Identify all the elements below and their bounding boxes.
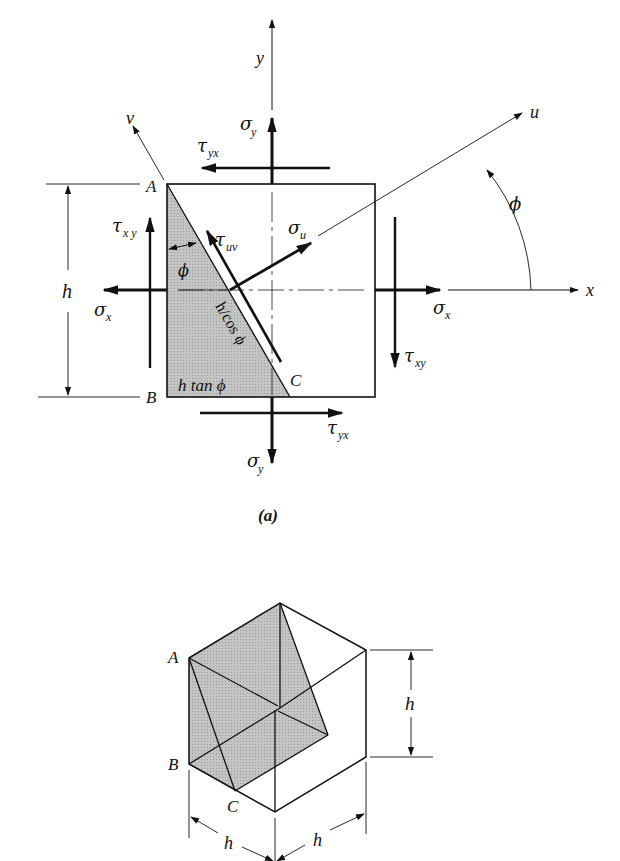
svg-text:xy: xy	[414, 356, 426, 370]
svg-text:τ: τ	[197, 135, 208, 156]
depth-left-dim-a	[191, 817, 218, 833]
depth-left-dim-b	[242, 847, 273, 861]
figure-a: y x u v ϕ A B C h ϕ h tan ϕ h/cos ϕ σ y …	[38, 20, 594, 525]
svg-text:x y: x y	[122, 226, 137, 240]
u-axis-label: u	[530, 102, 539, 122]
svg-text:τ: τ	[112, 215, 123, 236]
tau-xy-left-label: τ x y	[112, 215, 137, 240]
corner-c-label: C	[290, 371, 302, 390]
u-axis	[318, 113, 522, 236]
svg-text:τ: τ	[215, 229, 226, 250]
v-axis	[133, 126, 164, 180]
wedge-phi-label: ϕ	[178, 261, 189, 280]
phi-arc	[487, 170, 531, 290]
y-axis-label: y	[254, 48, 264, 68]
svg-text:u: u	[300, 228, 306, 242]
corner-a-label: A	[145, 177, 157, 196]
sigma-x-right-label: σ x	[433, 297, 451, 322]
svg-text:y: y	[250, 125, 257, 139]
x-axis-label: x	[585, 280, 594, 300]
height-dimension-label: h	[405, 693, 415, 714]
svg-text:yx: yx	[207, 146, 219, 160]
v-axis-label: v	[126, 108, 134, 128]
sigma-u-arrow	[230, 243, 311, 290]
phi-angle-label: ϕ	[509, 193, 521, 214]
tau-xy-right-label: τ xy	[404, 345, 426, 370]
svg-text:x: x	[105, 310, 112, 324]
svg-text:x: x	[444, 308, 451, 322]
svg-text:uv: uv	[226, 240, 238, 254]
tau-yx-top-label: τ yx	[197, 135, 219, 160]
figure-a-caption: (a)	[258, 506, 278, 525]
sigma-y-top-label: σ y	[240, 113, 257, 139]
cube-corner-c-label: C	[227, 797, 239, 816]
wedge-base-label: h tan ϕ	[178, 376, 226, 395]
svg-text:τ: τ	[404, 345, 415, 366]
svg-text:τ: τ	[327, 417, 338, 438]
depth-left-label: h	[224, 833, 233, 853]
figure-b-isometric-cube: A B C h h h	[167, 603, 433, 861]
sigma-u-label: σ u	[288, 217, 306, 242]
tau-yx-bottom-label: τ yx	[327, 417, 349, 442]
corner-b-label: B	[146, 388, 157, 407]
sigma-y-bottom-label: σ y	[247, 450, 264, 476]
cube-corner-a-label: A	[167, 648, 179, 667]
depth-right-label: h	[313, 830, 322, 850]
depth-right-dim-b	[277, 845, 305, 861]
h-dimension-label: h	[62, 280, 72, 302]
svg-text:y: y	[257, 462, 264, 476]
cube-corner-b-label: B	[168, 755, 179, 774]
stress-element-diagram: y x u v ϕ A B C h ϕ h tan ϕ h/cos ϕ σ y …	[0, 0, 620, 861]
svg-text:yx: yx	[337, 428, 349, 442]
depth-right-dim-a	[330, 814, 364, 830]
sigma-x-left-label: σ x	[94, 299, 112, 324]
